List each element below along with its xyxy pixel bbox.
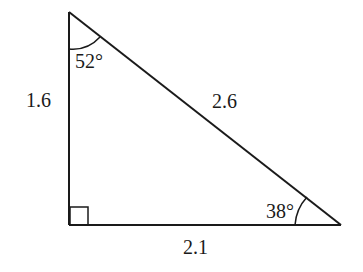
side-label-bottom: 2.1 (183, 236, 208, 258)
right-angle-marker (70, 207, 88, 225)
triangle-svg: 52° 38° 1.6 2.6 2.1 (0, 0, 363, 272)
angle-arc-right (295, 197, 307, 225)
triangle-diagram: 52° 38° 1.6 2.6 2.1 (0, 0, 363, 272)
side-hypotenuse (69, 12, 341, 225)
side-label-hypotenuse: 2.6 (212, 90, 237, 112)
angle-arc-top (69, 37, 100, 49)
side-label-left: 1.6 (26, 89, 51, 111)
angle-label-right: 38° (266, 200, 294, 222)
angle-label-top: 52° (75, 50, 103, 72)
